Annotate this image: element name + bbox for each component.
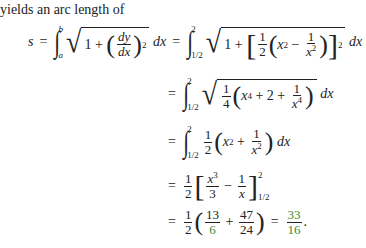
intro-text: yields an arc length of: [0, 2, 124, 18]
equation-line-2: = ∫21/2 √ 14 (x4 + 2 + 1x4 ) dx: [162, 76, 333, 112]
arc-length-var: s: [28, 34, 33, 50]
sqrt: √ 1 + ( dydx )2: [66, 25, 149, 58]
integral-sign: ∫ba: [53, 24, 63, 60]
equation-line-3: = ∫21/2 12 (x2 + 1x2 ) dx: [162, 124, 290, 160]
final-result: 3316: [287, 208, 302, 236]
equation-line-4: = 12 [ x33 − 1x ] 21/2: [162, 170, 270, 202]
equation-line-5: = 12 ( 136 + 4724 ) = 3316 .: [162, 208, 307, 236]
equation-line-1: s = ∫ba √ 1 + ( dydx )2 dx = ∫21/2 √ 1 +…: [28, 24, 362, 60]
